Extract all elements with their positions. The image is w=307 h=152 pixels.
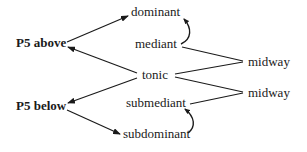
- node-tonic: tonic: [142, 68, 168, 82]
- edge-mediant-dominant-curve: [181, 19, 190, 44]
- edge-mediant-midway-top: [182, 47, 243, 61]
- node-dominant: dominant: [131, 5, 180, 19]
- edge-submediant-midway-bottom: [190, 93, 243, 104]
- edge-tonic-midway-top: [175, 62, 243, 74]
- diagram-canvas: P5 above P5 below dominant mediant tonic…: [0, 0, 307, 152]
- edge-tonic-midway-bottom: [175, 77, 243, 92]
- node-p5-above: P5 above: [16, 36, 66, 50]
- node-midway-bottom: midway: [248, 86, 290, 100]
- node-subdominant: subdominant: [123, 127, 190, 141]
- edge-p5below-subdominant: [67, 110, 120, 134]
- edge-tonic-p5above: [68, 47, 137, 73]
- node-midway-top: midway: [248, 55, 290, 69]
- node-submediant: submediant: [126, 96, 186, 110]
- edge-p5above-dominant: [67, 16, 128, 42]
- node-mediant: mediant: [135, 37, 177, 51]
- node-p5-below: P5 below: [16, 99, 66, 113]
